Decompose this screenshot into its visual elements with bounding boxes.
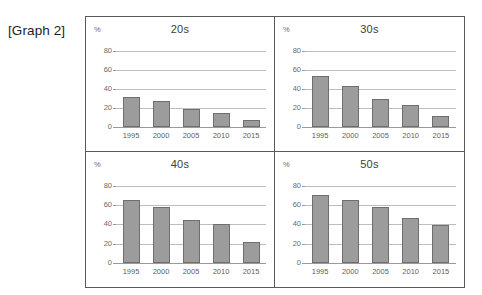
plot-area-40s: 02040608019952000200520102015 (116, 176, 266, 263)
bar-chart-50s: % 50s 02040608019952000200520102015 (275, 152, 464, 287)
bar (432, 116, 449, 127)
bar-series: 19952000200520102015 (305, 176, 456, 263)
y-axis-tick-label: 0 (297, 123, 301, 131)
bar (213, 224, 230, 263)
bar-slot: 2000 (146, 176, 176, 263)
bar-slot: 2010 (396, 176, 426, 263)
bar (432, 225, 449, 263)
bar-slot: 1995 (116, 41, 146, 127)
y-axis-tick-label: 60 (104, 201, 112, 209)
x-axis-tick-label: 2000 (153, 267, 170, 276)
x-axis-tick-label: 2015 (243, 267, 260, 276)
bar-slot: 2005 (365, 176, 395, 263)
x-axis-tick-label: 1995 (312, 267, 329, 276)
graph-caption: [Graph 2] (8, 23, 65, 38)
y-axis-tick-label: 40 (293, 221, 301, 229)
y-axis-tick-mark (302, 127, 305, 128)
bar-series: 19952000200520102015 (305, 41, 456, 127)
bar (123, 200, 140, 263)
y-axis-tick-label: 20 (293, 104, 301, 112)
bar-slot: 2005 (176, 176, 206, 263)
y-axis-tick-label: 0 (297, 259, 301, 267)
x-axis-tick-label: 2015 (433, 131, 450, 140)
bar-slot: 2010 (206, 176, 236, 263)
bar (342, 200, 359, 263)
chart-cell-40s: % 40s 02040608019952000200520102015 (86, 152, 275, 287)
bar-slot: 2010 (396, 41, 426, 127)
y-axis-tick-label: 60 (293, 201, 301, 209)
bar-slot: 2010 (206, 41, 236, 127)
bar-series: 19952000200520102015 (116, 41, 266, 127)
bar-chart-30s: % 30s 02040608019952000200520102015 (275, 17, 464, 151)
chart-title-20s: 20s (86, 23, 274, 35)
x-axis-tick-label: 2010 (402, 131, 419, 140)
y-axis-tick-label: 60 (293, 66, 301, 74)
x-axis-tick-label: 1995 (123, 267, 140, 276)
y-axis-tick-mark (113, 127, 116, 128)
x-axis-tick-label: 2000 (342, 267, 359, 276)
gridline (305, 127, 456, 128)
bar-chart-40s: % 40s 02040608019952000200520102015 (86, 152, 274, 287)
x-axis-tick-label: 2010 (402, 267, 419, 276)
bar-slot: 2015 (236, 41, 266, 127)
bar (243, 242, 260, 263)
gridline (116, 263, 266, 264)
bar-slot: 2005 (176, 41, 206, 127)
y-axis-tick-mark (113, 263, 116, 264)
gridline (305, 263, 456, 264)
bar (402, 105, 419, 127)
x-axis-tick-label: 2005 (372, 131, 389, 140)
bar (342, 86, 359, 127)
chart-grid: % 20s 02040608019952000200520102015 % 30… (85, 16, 465, 288)
x-axis-tick-label: 2015 (433, 267, 450, 276)
bar-series: 19952000200520102015 (116, 176, 266, 263)
x-axis-tick-label: 2000 (342, 131, 359, 140)
plot-area-50s: 02040608019952000200520102015 (305, 176, 456, 263)
bar-slot: 2015 (426, 176, 456, 263)
y-axis-tick-mark (302, 263, 305, 264)
x-axis-tick-label: 2005 (183, 267, 200, 276)
bar (153, 101, 170, 127)
bar (183, 220, 200, 263)
bar (312, 76, 329, 127)
x-axis-tick-label: 2005 (183, 131, 200, 140)
bar (123, 97, 140, 127)
y-axis-tick-label: 20 (104, 104, 112, 112)
x-axis-tick-label: 2015 (243, 131, 260, 140)
bar (402, 218, 419, 263)
chart-cell-30s: % 30s 02040608019952000200520102015 (275, 17, 464, 152)
y-axis-tick-label: 60 (104, 66, 112, 74)
bar-slot: 2015 (426, 41, 456, 127)
x-axis-tick-label: 2005 (372, 267, 389, 276)
bar-slot: 2015 (236, 176, 266, 263)
x-axis-tick-label: 2010 (213, 267, 230, 276)
chart-cell-20s: % 20s 02040608019952000200520102015 (86, 17, 275, 152)
chart-cell-50s: % 50s 02040608019952000200520102015 (275, 152, 464, 287)
x-axis-tick-label: 2010 (213, 131, 230, 140)
bar (243, 120, 260, 127)
y-axis-tick-label: 20 (104, 240, 112, 248)
y-axis-tick-label: 0 (108, 123, 112, 131)
gridline (116, 127, 266, 128)
y-axis-tick-label: 20 (293, 240, 301, 248)
chart-title-30s: 30s (275, 23, 464, 35)
plot-area-20s: 02040608019952000200520102015 (116, 41, 266, 127)
y-axis-tick-label: 80 (104, 182, 112, 190)
y-axis-tick-label: 80 (104, 47, 112, 55)
bar (372, 99, 389, 127)
y-axis-tick-label: 0 (108, 259, 112, 267)
bar-slot: 2005 (365, 41, 395, 127)
x-axis-tick-label: 1995 (123, 131, 140, 140)
plot-area-30s: 02040608019952000200520102015 (305, 41, 456, 127)
graph-page: [Graph 2] % 20s 020406080199520002005201… (0, 0, 482, 295)
bar (153, 207, 170, 263)
bar (312, 195, 329, 263)
bar (183, 109, 200, 127)
y-axis-tick-label: 80 (293, 182, 301, 190)
bar (372, 207, 389, 263)
bar-slot: 2000 (335, 176, 365, 263)
bar (213, 113, 230, 127)
x-axis-tick-label: 2000 (153, 131, 170, 140)
bar-slot: 1995 (305, 176, 335, 263)
bar-chart-20s: % 20s 02040608019952000200520102015 (86, 17, 274, 151)
